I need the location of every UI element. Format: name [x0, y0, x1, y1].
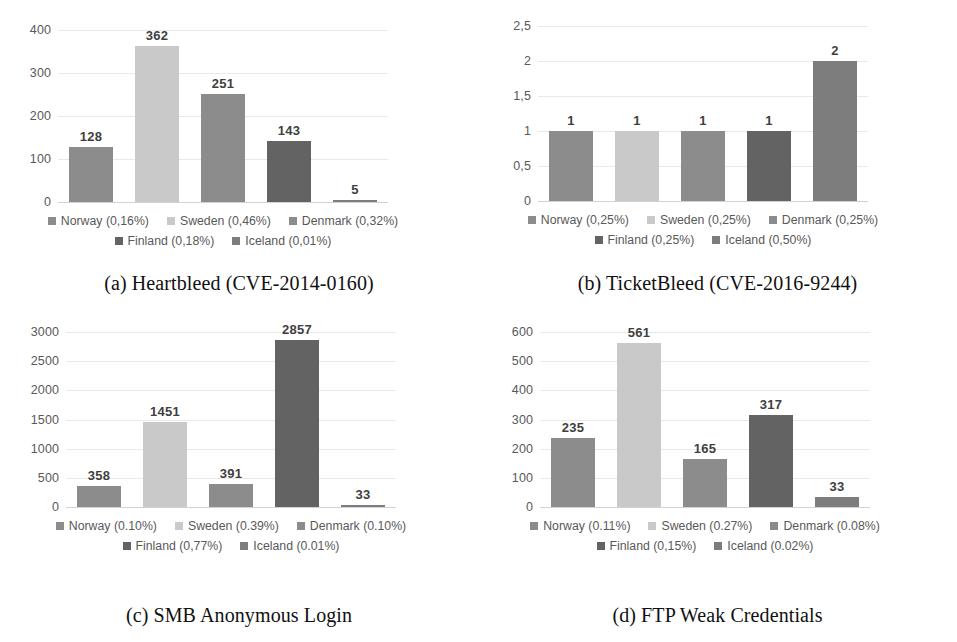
bar-value-label: 1451 [150, 404, 180, 419]
bar-group-a: 1283622511435 [58, 30, 388, 202]
y-axis-tick-label: 3000 [31, 325, 66, 339]
legend-item: Finland (0,18%) [115, 231, 215, 251]
y-axis-tick-label: 0 [44, 195, 58, 209]
legend-item: Iceland (0.01%) [240, 536, 339, 556]
legend-label: Norway (0.11%) [543, 516, 630, 536]
y-axis-tick-label: 0,5 [513, 159, 538, 173]
chart-panel-c: 3000250020001500100050003581451391285733… [0, 310, 478, 642]
legend-label: Iceland (0,50%) [725, 230, 811, 250]
bar-denmark: 1 [681, 131, 725, 201]
legend-item: Sweden (0,25%) [647, 210, 751, 230]
legend-label: Finland (0,18%) [128, 231, 215, 251]
legend-swatch-icon [240, 542, 248, 550]
legend-item: Norway (0.10%) [56, 516, 157, 536]
panel-caption-c: (c) SMB Anonymous Login [0, 604, 478, 627]
legend-item: Finland (0,15%) [597, 536, 697, 556]
legend-item: Denmark (0.08%) [770, 516, 879, 536]
y-axis-tick-label: 200 [512, 442, 540, 456]
legend-swatch-icon [595, 236, 603, 244]
legend-label: Iceland (0.01%) [253, 536, 339, 556]
y-axis-tick-label: 400 [512, 383, 540, 397]
bar-denmark: 165 [683, 459, 727, 507]
legend-swatch-icon [528, 216, 536, 224]
bar-norway: 235 [551, 438, 595, 507]
legend-swatch-icon [289, 217, 297, 225]
legend-label: Norway (0,16%) [61, 211, 149, 231]
y-axis-tick-label: 100 [512, 471, 540, 485]
y-axis-tick-label: 1,5 [513, 89, 538, 103]
bar-value-label: 317 [760, 397, 782, 412]
legend-item: Iceland (0.02%) [714, 536, 813, 556]
bar-value-label: 128 [80, 129, 102, 144]
legend-label: Denmark (0.08%) [783, 516, 879, 536]
legend-swatch-icon [712, 236, 720, 244]
y-axis-tick-label: 0 [524, 194, 538, 208]
legend-swatch-icon [597, 542, 605, 550]
legend-swatch-icon [714, 542, 722, 550]
bar-value-label: 143 [278, 123, 300, 138]
bar-finland: 2857 [275, 340, 319, 507]
bar-iceland: 2 [813, 61, 857, 201]
legend-item: Iceland (0,50%) [712, 230, 811, 250]
plot-area-d: 600500400300200100023556116531733 [540, 332, 870, 507]
legend-swatch-icon [530, 522, 538, 530]
legend-swatch-icon [123, 542, 131, 550]
bar-norway: 128 [69, 147, 113, 202]
legend-label: Sweden (0,46%) [180, 211, 271, 231]
y-axis-tick-label: 600 [512, 325, 540, 339]
bar-value-label: 1 [567, 113, 574, 128]
legend-label: Sweden (0,25%) [660, 210, 751, 230]
bar-sweden: 1 [615, 131, 659, 201]
y-axis-tick-label: 300 [30, 66, 58, 80]
legend-label: Denmark (0,32%) [302, 211, 398, 231]
legend-item: Sweden (0.27%) [648, 516, 752, 536]
legend-label: Norway (0,25%) [541, 210, 629, 230]
legend-swatch-icon [56, 522, 64, 530]
bar-group-c: 3581451391285733 [66, 332, 396, 507]
y-axis-tick-label: 2,5 [513, 19, 538, 33]
bar-value-label: 2857 [282, 322, 312, 337]
y-axis-tick-label: 1000 [31, 442, 66, 456]
legend-a: Norway (0,16%)Sweden (0,46%)Denmark (0,3… [38, 211, 408, 252]
legend-label: Denmark (0,25%) [782, 210, 878, 230]
legend-item: Norway (0,25%) [528, 210, 629, 230]
figure-sheet: 40030020010001283622511435Norway (0,16%)… [0, 0, 957, 642]
legend-swatch-icon [48, 217, 56, 225]
legend-item: Denmark (0.10%) [297, 516, 406, 536]
plot-area-a: 40030020010001283622511435 [58, 30, 388, 202]
legend-item: Finland (0,25%) [595, 230, 695, 250]
legend-swatch-icon [175, 522, 183, 530]
panel-caption-a: (a) Heartbleed (CVE-2014-0160) [0, 272, 478, 295]
legend-item: Denmark (0,25%) [769, 210, 878, 230]
bar-value-label: 251 [212, 76, 234, 91]
gridline [58, 202, 388, 203]
legend-label: Sweden (0.27%) [661, 516, 752, 536]
y-axis-tick-label: 100 [30, 152, 58, 166]
legend-label: Iceland (0.02%) [727, 536, 813, 556]
bar-group-d: 23556116531733 [540, 332, 870, 507]
y-axis-tick-label: 2000 [31, 383, 66, 397]
y-axis-tick-label: 0 [52, 500, 66, 514]
legend-label: Iceland (0,01%) [245, 231, 331, 251]
panel-caption-b: (b) TicketBleed (CVE-2016-9244) [478, 272, 957, 295]
gridline [540, 507, 870, 508]
bar-finland: 317 [749, 415, 793, 507]
bar-norway: 358 [77, 486, 121, 507]
chart-c: 3000250020001500100050003581451391285733… [66, 332, 396, 557]
legend-label: Finland (0,77%) [136, 536, 223, 556]
legend-item: Denmark (0,32%) [289, 211, 398, 231]
legend-item: Finland (0,77%) [123, 536, 223, 556]
panel-grid: 40030020010001283622511435Norway (0,16%)… [0, 0, 957, 642]
y-axis-tick-label: 2500 [31, 354, 66, 368]
gridline [538, 201, 868, 202]
legend-swatch-icon [115, 237, 123, 245]
bar-iceland: 33 [341, 505, 385, 508]
bar-value-label: 561 [628, 325, 650, 340]
bar-value-label: 1 [765, 113, 772, 128]
legend-b: Norway (0,25%)Sweden (0,25%)Denmark (0,2… [518, 210, 888, 251]
y-axis-tick-label: 1500 [31, 413, 66, 427]
panel-caption-d: (d) FTP Weak Credentials [478, 604, 957, 627]
legend-swatch-icon [167, 217, 175, 225]
y-axis-tick-label: 200 [30, 109, 58, 123]
chart-b: 2,521,510,5011112Norway (0,25%)Sweden (0… [538, 26, 868, 251]
